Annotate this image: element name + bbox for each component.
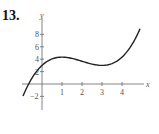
y-tick-label: 6 [35,43,39,52]
function-curve [23,29,140,96]
y-tick-label: −2 [30,92,39,101]
chart: xy1234−22468 [0,0,159,134]
x-tick-label: 3 [100,88,104,97]
x-axis-label: x [145,80,150,89]
x-tick-label: 1 [60,88,64,97]
x-tick-label: 2 [80,88,84,97]
y-tick-label: 4 [35,55,39,64]
x-tick-label: 4 [120,88,124,97]
y-axis-label: y [39,11,44,20]
y-tick-label: 8 [35,30,39,39]
